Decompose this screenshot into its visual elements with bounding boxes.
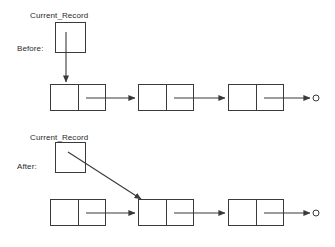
- before-pointer-box: [56, 23, 86, 53]
- diagram-vectors: [0, 0, 335, 247]
- after-null-terminator-icon: [313, 210, 319, 216]
- linked-list-diagram: Current_Record Before: 73 34 14 Current_…: [0, 0, 335, 247]
- before-null-terminator-icon: [313, 95, 319, 101]
- after-pointer-arrow: [68, 152, 141, 199]
- after-pointer-box: [56, 143, 86, 173]
